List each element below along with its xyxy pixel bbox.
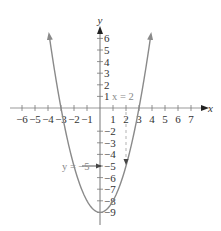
x-tick-label: −5 — [29, 113, 41, 125]
x-axis-label: x — [207, 102, 213, 114]
y-tick-label: 5 — [104, 44, 110, 56]
x-tick-label: −1 — [81, 113, 93, 125]
x-tick-label: 4 — [149, 113, 155, 125]
x-tick-label: −6 — [16, 113, 28, 125]
annotation-x-equals-2: x = 2 — [112, 91, 134, 102]
y-tick-label: −2 — [104, 125, 116, 137]
y-tick-label: −6 — [104, 172, 116, 184]
y-tick-label: −4 — [104, 148, 116, 160]
y-tick-label: 4 — [104, 56, 110, 68]
y-tick-label: −3 — [104, 137, 116, 149]
annotation-y-equals-minus-5: y = −5 — [62, 161, 90, 172]
parabola-graph: −6−5−4−3−2−11234567 654321−2−3−4−5−6−7−8… — [0, 0, 221, 231]
y-tick-label: 2 — [104, 79, 110, 91]
y-tick-label: −7 — [104, 183, 116, 195]
x-tick-label: 1 — [110, 113, 116, 125]
y-tick-label: 3 — [104, 67, 110, 79]
x-tick-label: 7 — [188, 113, 194, 125]
x-tick-label: −2 — [68, 113, 80, 125]
y-axis-label: y — [97, 14, 103, 26]
y-tick-label: 1 — [104, 90, 110, 102]
y-tick-label: 6 — [104, 32, 110, 44]
x-tick-label: −4 — [42, 113, 54, 125]
y-tick-label: −5 — [104, 160, 116, 172]
y-tick-label: −9 — [104, 206, 116, 218]
x-tick-label: 5 — [162, 113, 168, 125]
x-tick-label: 6 — [175, 113, 181, 125]
x-tick-label: −3 — [55, 113, 67, 125]
